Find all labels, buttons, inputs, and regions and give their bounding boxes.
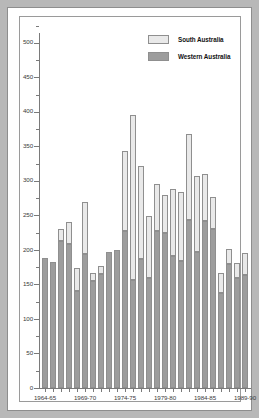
- legend-item-sa: South Australia: [148, 34, 224, 44]
- x-tick-label: 1974-75: [114, 394, 136, 401]
- stacked-bar: [178, 8, 184, 388]
- y-tick-label-wrap: 250: [8, 212, 33, 219]
- bar-segment-south-australia: [242, 253, 248, 274]
- y-tick-label: 500: [11, 39, 33, 45]
- y-tick-major: [34, 181, 39, 182]
- x-tick: [109, 389, 110, 392]
- x-axis-line: [39, 388, 251, 389]
- bar-segment-south-australia: [210, 197, 216, 229]
- chart-panel: 050100150200250300350400450500 1964-6519…: [7, 7, 252, 411]
- y-tick-minor: [36, 371, 39, 372]
- stacked-bar: [114, 8, 120, 388]
- bar-segment-south-australia: [202, 174, 208, 221]
- bar-segment-western-australia: [138, 259, 144, 388]
- y-tick-major: [34, 43, 39, 44]
- x-tick-label: 1969-70: [74, 394, 96, 401]
- bar-segment-western-australia: [42, 258, 48, 388]
- x-tick: [197, 389, 198, 392]
- bar-segment-south-australia: [146, 216, 152, 277]
- x-tick: [245, 389, 246, 392]
- y-tick-major: [34, 77, 39, 78]
- x-tick: [221, 389, 222, 392]
- x-tick-label: 1964-65: [34, 394, 56, 401]
- y-tick-major: [34, 319, 39, 320]
- bar-segment-south-australia: [138, 166, 144, 259]
- y-tick-label: 350: [11, 143, 33, 149]
- stacked-bar: [218, 8, 224, 388]
- bar-segment-western-australia: [98, 274, 104, 388]
- stacked-bar: [130, 8, 136, 388]
- x-tick: [157, 389, 158, 392]
- y-tick-major: [34, 388, 39, 389]
- bar-segment-south-australia: [186, 134, 192, 220]
- y-tick-minor: [36, 198, 39, 199]
- y-tick-label: 300: [11, 177, 33, 183]
- bar-segment-western-australia: [146, 278, 152, 388]
- y-tick-minor: [36, 164, 39, 165]
- stacked-bar: [138, 8, 144, 388]
- x-tick-label: 1989-90: [234, 394, 256, 401]
- y-tick-major: [34, 112, 39, 113]
- bar-segment-western-australia: [218, 293, 224, 388]
- bar-segment-western-australia: [122, 231, 128, 388]
- x-tick-label: 1979-80: [154, 394, 176, 401]
- bar-segment-western-australia: [226, 264, 232, 388]
- bar-segment-western-australia: [170, 256, 176, 388]
- bar-segment-south-australia: [58, 229, 64, 241]
- bar-segment-south-australia: [178, 192, 184, 261]
- y-tick-minor: [36, 267, 39, 268]
- y-tick-label: 200: [11, 247, 33, 253]
- stacked-bar: [106, 8, 112, 388]
- bar-segment-western-australia: [58, 241, 64, 388]
- bar-segment-western-australia: [210, 229, 216, 388]
- stacked-bar: [146, 8, 152, 388]
- y-tick-label-wrap: 50: [8, 350, 33, 357]
- bar-segment-western-australia: [178, 261, 184, 388]
- x-tick: [125, 389, 126, 392]
- legend-swatch-icon: [148, 35, 169, 44]
- bar-segment-south-australia: [234, 263, 240, 278]
- y-tick-major: [34, 250, 39, 251]
- stacked-bar: [226, 8, 232, 388]
- x-tick: [237, 389, 238, 392]
- bar-segment-south-australia: [162, 195, 168, 233]
- bar-segment-western-australia: [106, 252, 112, 388]
- y-tick-label-wrap: 400: [8, 108, 33, 115]
- x-tick-label: 1984-85: [194, 394, 216, 401]
- bar-segment-south-australia: [90, 273, 96, 281]
- y-tick-label: 400: [11, 108, 33, 114]
- bar-segment-western-australia: [162, 233, 168, 388]
- bar-segment-western-australia: [74, 291, 80, 388]
- bar-segment-western-australia: [194, 252, 200, 388]
- y-tick-major: [34, 215, 39, 216]
- bar-segment-western-australia: [82, 254, 88, 388]
- stacked-bar: [162, 8, 168, 388]
- legend-label: Western Australia: [178, 53, 230, 60]
- bar-segment-south-australia: [226, 249, 232, 264]
- stacked-bar: [210, 8, 216, 388]
- bar-segment-south-australia: [170, 189, 176, 256]
- y-tick-label-wrap: 100: [8, 316, 33, 323]
- x-tick: [173, 389, 174, 392]
- bar-segment-western-australia: [202, 221, 208, 388]
- x-tick: [85, 389, 86, 392]
- legend-item-wa: Western Australia: [148, 51, 230, 61]
- chart-figure: 050100150200250300350400450500 1964-6519…: [0, 0, 259, 418]
- y-tick-minor: [36, 336, 39, 337]
- stacked-bar: [202, 8, 208, 388]
- x-tick: [181, 389, 182, 392]
- x-tick: [93, 389, 94, 392]
- y-tick-major: [34, 284, 39, 285]
- stacked-bar: [98, 8, 104, 388]
- y-tick-label-wrap: 500: [8, 39, 33, 46]
- x-tick: [213, 389, 214, 392]
- bar-segment-western-australia: [50, 262, 56, 388]
- x-tick: [165, 389, 166, 392]
- stacked-bar: [242, 8, 248, 388]
- bar-segment-western-australia: [154, 231, 160, 388]
- y-tick-minor: [36, 95, 39, 96]
- y-tick-label-wrap: 350: [8, 143, 33, 150]
- y-tick-label: 150: [11, 281, 33, 287]
- bar-segment-south-australia: [74, 268, 80, 291]
- bar-segment-western-australia: [90, 281, 96, 388]
